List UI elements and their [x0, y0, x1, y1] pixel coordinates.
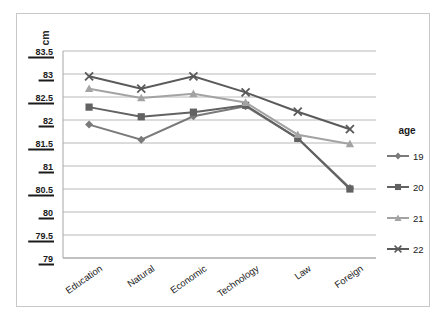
- y-axis-title: cm: [39, 30, 51, 45]
- y-axis-tick-label: 80.5: [35, 185, 53, 195]
- y-axis-tick-label: 83.5: [35, 47, 53, 57]
- legend-item-19[interactable]: 19: [387, 151, 424, 162]
- data-point-marker-square: [85, 104, 92, 111]
- series-line-19: [89, 106, 350, 188]
- y-axis-tick-label: 81: [43, 162, 53, 172]
- legend-label-22: 22: [413, 244, 424, 255]
- line-chart: 7979.58080.58181.58282.58383.5cmEducatio…: [17, 14, 429, 306]
- legend-title: age: [398, 125, 416, 136]
- data-point-marker-diamond: [85, 121, 93, 129]
- x-axis-category-label: Foreign: [332, 263, 365, 290]
- data-point-marker-square: [346, 185, 353, 192]
- y-axis-tick-label: 81.5: [35, 139, 53, 149]
- data-point-marker-square: [190, 109, 197, 116]
- legend-label-21: 21: [413, 213, 424, 224]
- series-line-20: [89, 105, 350, 189]
- x-axis-category-label: Economic: [168, 262, 209, 295]
- series-line-22: [89, 76, 350, 129]
- x-axis-category-label: Natural: [125, 263, 156, 290]
- x-axis-category-label: Law: [292, 263, 313, 282]
- data-point-marker-square: [395, 184, 401, 190]
- x-axis-category-label: Education: [63, 263, 104, 296]
- data-point-marker-diamond: [137, 136, 145, 144]
- y-axis-tick-label: 82.5: [35, 93, 53, 103]
- y-axis-tick-label: 82: [43, 116, 53, 126]
- y-axis-tick-label: 79.5: [35, 231, 53, 241]
- data-point-marker-diamond: [395, 153, 402, 160]
- legend-item-20[interactable]: 20: [387, 182, 424, 193]
- y-axis-tick-label: 80: [43, 208, 53, 218]
- x-axis-category-label: Technology: [215, 262, 261, 299]
- legend-item-21[interactable]: 21: [387, 213, 424, 224]
- legend-item-22[interactable]: 22: [387, 244, 424, 255]
- legend-label-19: 19: [413, 151, 424, 162]
- legend-label-20: 20: [413, 182, 424, 193]
- data-point-marker-square: [138, 113, 145, 120]
- y-axis-tick-label: 83: [43, 70, 53, 80]
- y-axis-tick-label: 79: [43, 254, 53, 264]
- chart-frame: 7979.58080.58181.58282.58383.5cmEducatio…: [16, 13, 430, 307]
